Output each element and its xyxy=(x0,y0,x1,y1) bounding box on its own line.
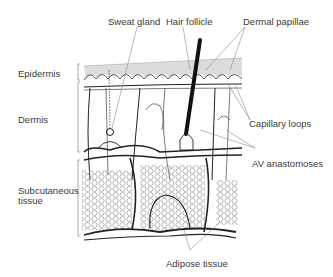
leader-av-2 xyxy=(226,130,255,148)
adipose-cluster-right xyxy=(216,180,238,225)
leader-capillary-loops-1 xyxy=(228,84,250,120)
label-tissue: tissue xyxy=(18,195,43,206)
label-av-anastomoses: AV anastomoses xyxy=(252,158,323,169)
label-hair-follicle: Hair follicle xyxy=(166,16,212,27)
label-dermal-papillae: Dermal papillae xyxy=(243,16,309,27)
label-dermis: Dermis xyxy=(18,114,48,125)
epidermis-bracket xyxy=(78,64,80,80)
label-adipose-tissue: Adipose tissue xyxy=(166,258,228,269)
label-sweat-gland: Sweat gland xyxy=(108,16,160,27)
dermis-bracket xyxy=(78,82,80,152)
leader-capillary-loops-2 xyxy=(236,86,250,120)
subcutaneous-bracket xyxy=(78,160,80,236)
sweat-gland-coil xyxy=(107,129,114,136)
skin-diagram xyxy=(0,0,333,277)
hair-shaft xyxy=(186,40,200,134)
adipose-cluster-left xyxy=(82,170,132,230)
leader-adipose-1 xyxy=(184,230,190,250)
label-capillary-loops: Capillary loops xyxy=(249,118,311,129)
label-epidermis: Epidermis xyxy=(18,68,60,79)
